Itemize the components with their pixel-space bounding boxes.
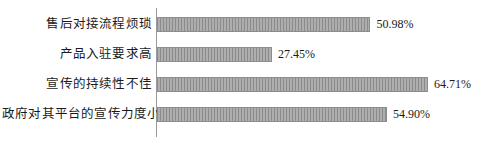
category-label: 政府对其平台的宣传力度小 xyxy=(2,107,152,122)
bar-group: 54.90% xyxy=(157,107,430,122)
bar-value-label: 54.90% xyxy=(393,107,430,122)
horizontal-bar-chart: 售后对接流程烦琐 50.98% 产品入驻要求高 27.45% 宣传的持续性不佳 … xyxy=(0,0,484,145)
category-label: 宣传的持续性不佳 xyxy=(2,77,152,92)
bar-value-label: 64.71% xyxy=(434,77,471,92)
bar-group: 50.98% xyxy=(157,17,413,32)
bar-row: 宣传的持续性不佳 64.71% xyxy=(0,69,484,99)
category-label: 售后对接流程烦琐 xyxy=(2,17,152,32)
bar xyxy=(157,17,370,32)
bar-row: 产品入驻要求高 27.45% xyxy=(0,39,484,69)
bar-group: 64.71% xyxy=(157,77,471,92)
bar-row: 售后对接流程烦琐 50.98% xyxy=(0,9,484,39)
bar xyxy=(157,77,428,92)
bar-value-label: 50.98% xyxy=(376,17,413,32)
bar-value-label: 27.45% xyxy=(278,47,315,62)
bar-row: 政府对其平台的宣传力度小 54.90% xyxy=(0,99,484,129)
bar xyxy=(157,47,272,62)
category-label: 产品入驻要求高 xyxy=(2,47,152,62)
bar xyxy=(157,107,387,122)
bar-group: 27.45% xyxy=(157,47,315,62)
